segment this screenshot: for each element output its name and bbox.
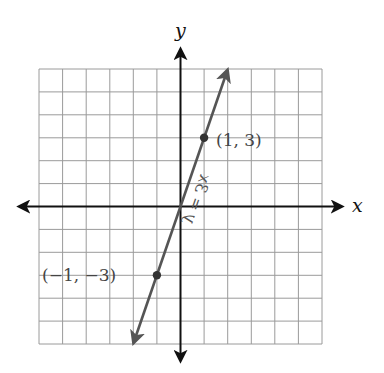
coordinate-plane: x y (1, 3) (−1, −3) y = 3x: [0, 0, 384, 373]
point-label-neg1-neg3: (−1, −3): [42, 265, 116, 285]
point-1-3: [200, 134, 208, 142]
equation-label: y = 3x: [180, 172, 215, 228]
x-axis-label: x: [352, 194, 363, 216]
point-label-1-3: (1, 3): [216, 130, 262, 150]
point-neg1-neg3: [153, 271, 161, 279]
y-axis-label: y: [174, 19, 186, 41]
